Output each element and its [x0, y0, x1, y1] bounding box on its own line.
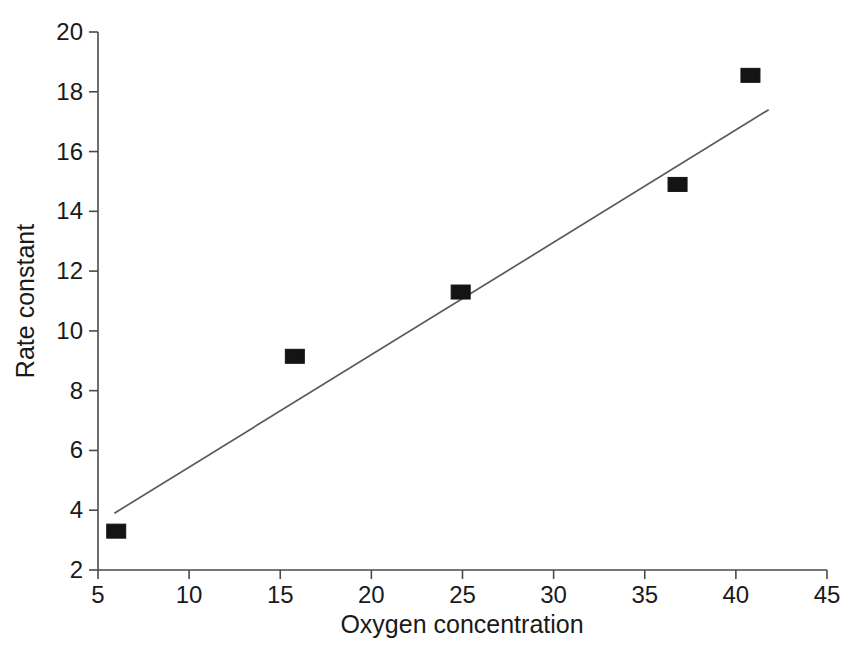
y-axis-ticks [89, 32, 98, 570]
x-tick-label: 30 [540, 581, 567, 608]
y-tick-label: 2 [70, 556, 83, 583]
x-tick-label: 35 [631, 581, 658, 608]
y-axis-title: Rate constant [11, 224, 39, 378]
x-tick-label: 20 [358, 581, 385, 608]
data-point-marker [451, 285, 470, 299]
x-tick-label: 25 [449, 581, 476, 608]
data-point-marker [107, 524, 126, 538]
y-tick-label: 20 [56, 18, 83, 45]
x-tick-label: 5 [91, 581, 104, 608]
fit-line [114, 110, 768, 514]
y-tick-label: 8 [70, 377, 83, 404]
data-points [107, 68, 760, 538]
data-point-marker [668, 177, 687, 191]
y-tick-label: 12 [56, 257, 83, 284]
trend-line [114, 110, 768, 514]
plot-area: 2468101214161820 51015202530354045 Oxyge… [0, 0, 862, 655]
scatter-chart: 2468101214161820 51015202530354045 Oxyge… [0, 0, 862, 655]
x-axis-ticks [98, 570, 827, 579]
x-tick-label: 40 [723, 581, 750, 608]
y-axis-tick-labels: 2468101214161820 [56, 18, 83, 583]
y-tick-label: 14 [56, 197, 83, 224]
data-point-marker [741, 68, 760, 82]
x-tick-label: 45 [814, 581, 841, 608]
y-tick-label: 6 [70, 436, 83, 463]
x-axis-title: Oxygen concentration [340, 610, 583, 638]
x-axis-tick-labels: 51015202530354045 [91, 581, 840, 608]
y-tick-label: 4 [70, 496, 83, 523]
data-point-marker [285, 349, 304, 363]
x-tick-label: 15 [267, 581, 294, 608]
x-tick-label: 10 [176, 581, 203, 608]
y-tick-label: 10 [56, 317, 83, 344]
y-tick-label: 18 [56, 78, 83, 105]
y-tick-label: 16 [56, 138, 83, 165]
